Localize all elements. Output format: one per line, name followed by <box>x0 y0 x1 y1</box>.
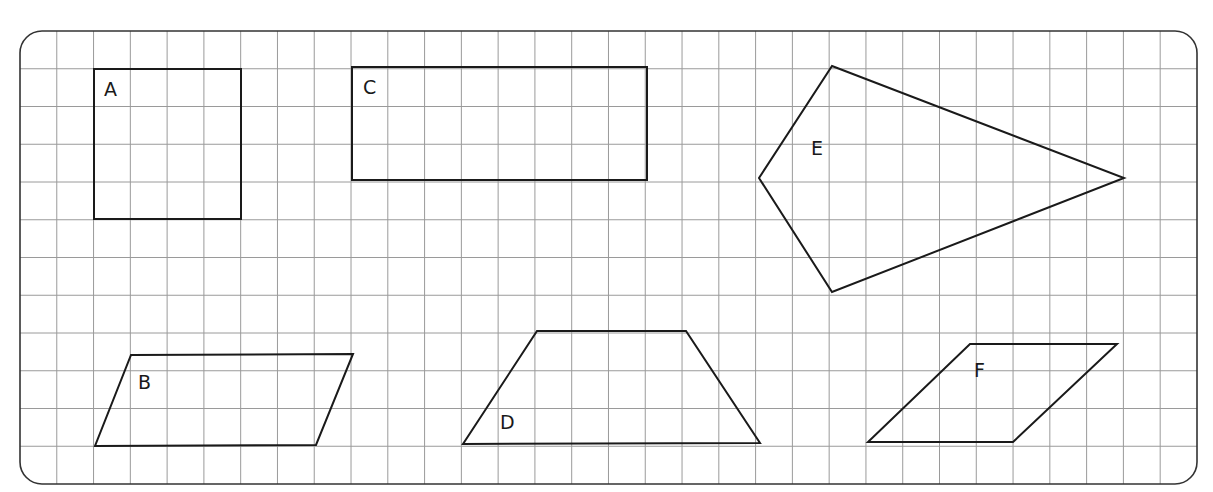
shape-label: F <box>974 359 985 381</box>
shape-outline <box>759 66 1124 292</box>
shape-label: A <box>104 78 117 100</box>
shapes-diagram: ABCDEF <box>0 0 1213 492</box>
shapes-layer: ABCDEF <box>94 66 1124 446</box>
shape-e-kite: E <box>759 66 1124 292</box>
shape-label: C <box>363 76 376 98</box>
shape-outline <box>868 344 1117 442</box>
shape-label: E <box>811 137 823 159</box>
shape-outline <box>352 67 647 180</box>
shape-d-trapezium: D <box>463 331 760 444</box>
grid-lines <box>20 31 1197 484</box>
shape-c-rectangle: C <box>352 67 647 180</box>
shape-f-parallelogram: F <box>868 344 1117 442</box>
shape-label: B <box>138 371 151 393</box>
shape-label: D <box>500 411 515 433</box>
